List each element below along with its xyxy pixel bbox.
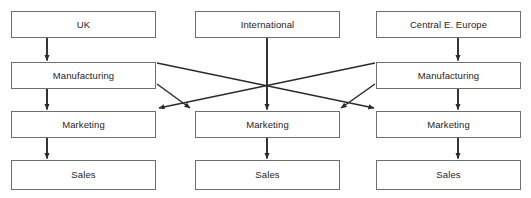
node-uk-manufacturing[interactable]: Manufacturing — [11, 62, 156, 89]
node-international-sales[interactable]: Sales — [195, 160, 340, 190]
node-uk-region[interactable]: UK — [11, 11, 156, 38]
node-label: Marketing — [246, 120, 289, 130]
node-cee-marketing[interactable]: Marketing — [376, 111, 521, 138]
node-uk-marketing[interactable]: Marketing — [11, 111, 156, 138]
node-cee-region[interactable]: Central E. Europe — [376, 11, 521, 38]
node-label: Sales — [255, 170, 279, 180]
diagram-canvas: UK Manufacturing Marketing Sales Interna… — [0, 0, 531, 198]
node-cee-sales[interactable]: Sales — [376, 160, 521, 190]
connector-cee-manufacturing-to-uk-marketing — [159, 63, 375, 108]
node-label: Manufacturing — [418, 71, 480, 81]
node-label: Sales — [436, 170, 460, 180]
node-label: Central E. Europe — [410, 20, 487, 30]
connector-cee-manufacturing-to-intl-marketing — [341, 84, 375, 108]
node-label: Marketing — [427, 120, 470, 130]
node-cee-manufacturing[interactable]: Manufacturing — [376, 62, 521, 89]
node-label: Manufacturing — [53, 71, 115, 81]
node-label: UK — [77, 20, 90, 30]
connector-uk-manufacturing-to-intl-marketing — [157, 84, 190, 108]
node-label: Marketing — [62, 120, 105, 130]
connector-uk-manufacturing-to-cee-marketing — [157, 63, 374, 108]
node-international-marketing[interactable]: Marketing — [195, 111, 340, 138]
node-label: Sales — [71, 170, 95, 180]
node-international-region[interactable]: International — [195, 11, 340, 38]
node-label: International — [241, 20, 295, 30]
node-uk-sales[interactable]: Sales — [11, 160, 156, 190]
